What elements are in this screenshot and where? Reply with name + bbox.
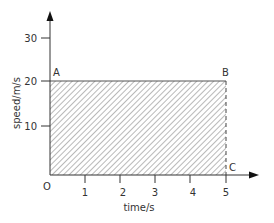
x-tick-3: 3 <box>152 187 158 198</box>
y-tick-10: 10 <box>24 121 37 132</box>
x-axis-label: time/s <box>123 202 154 213</box>
x-ticks <box>85 175 226 183</box>
y-axis-label: speed/m/s <box>11 77 22 129</box>
x-tick-1: 1 <box>82 187 88 198</box>
point-label-a: A <box>53 67 60 78</box>
x-tick-4: 4 <box>190 187 196 198</box>
x-tick-2: 2 <box>120 187 126 198</box>
point-label-b: B <box>222 67 229 78</box>
x-axis-arrow-icon <box>249 172 259 179</box>
speed-time-graph: 30 20 10 1 2 3 4 5 O time/s speed/m/s A … <box>0 0 274 223</box>
y-ticks <box>41 38 50 126</box>
x-tick-5: 5 <box>223 187 229 198</box>
y-axis-arrow-icon <box>47 11 54 21</box>
y-tick-30: 30 <box>24 33 37 44</box>
origin-label: O <box>43 181 51 192</box>
y-tick-20: 20 <box>24 76 37 87</box>
shaded-area <box>50 81 226 175</box>
point-label-c: C <box>229 162 236 173</box>
